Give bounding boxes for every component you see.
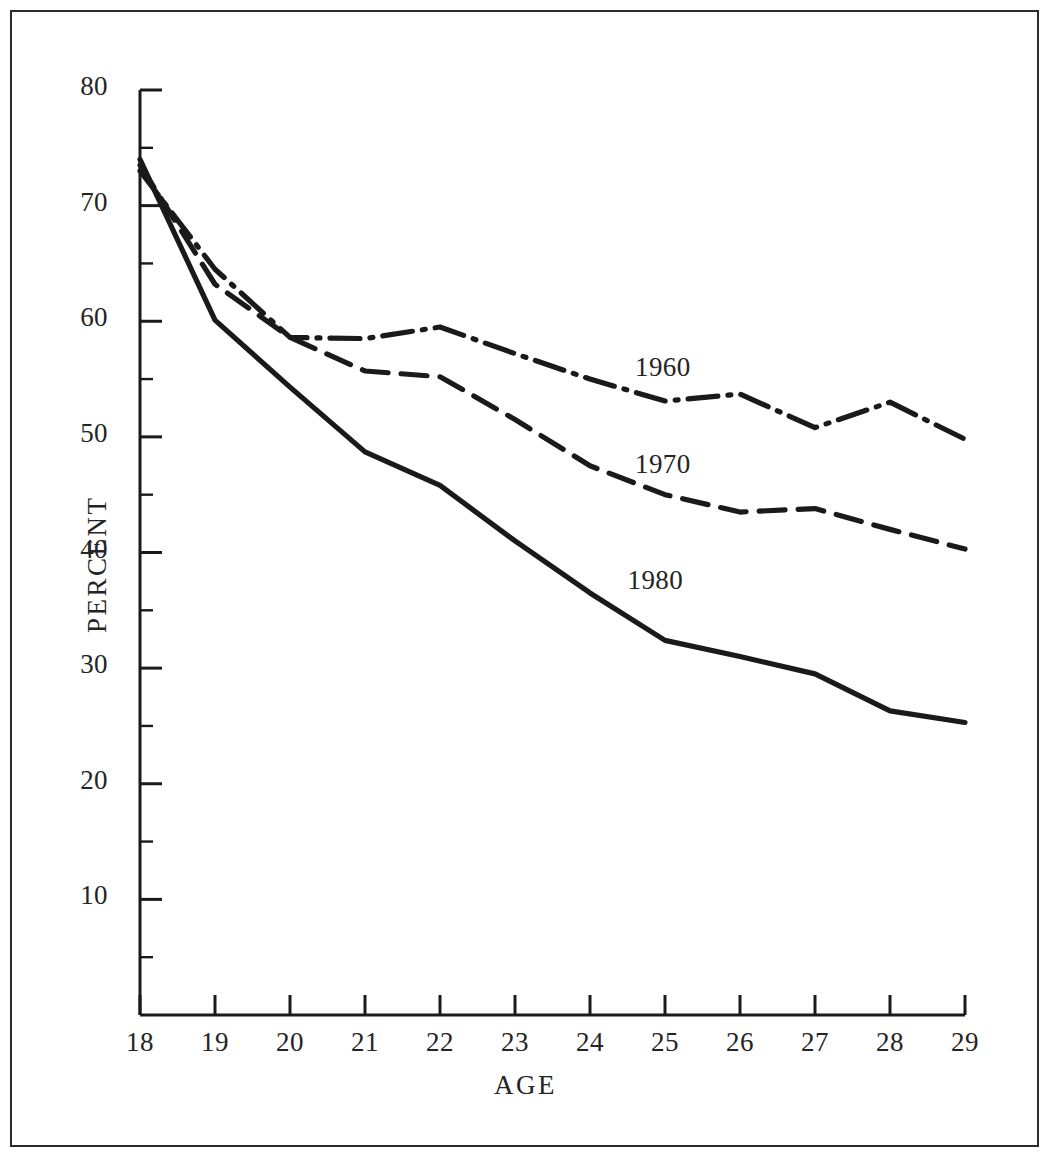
chart-page: 1020304050607080181920212223242526272829… [0, 0, 1051, 1159]
x-tick-label: 28 [850, 1027, 930, 1058]
x-tick-label: 20 [250, 1027, 330, 1058]
x-tick-label: 21 [325, 1027, 405, 1058]
y-tick-label: 70 [0, 187, 108, 218]
y-tick-label: 10 [0, 880, 108, 911]
series-annotation-1980: 1980 [628, 565, 684, 596]
series-annotation-1960: 1960 [635, 352, 691, 383]
x-axis-title: AGE [0, 1070, 1051, 1101]
series-annotation-1970: 1970 [635, 449, 691, 480]
x-tick-label: 26 [700, 1027, 780, 1058]
x-tick-label: 23 [475, 1027, 555, 1058]
series-line-1960 [140, 171, 965, 439]
y-axis-title: PERCENT [82, 495, 113, 633]
x-tick-label: 27 [775, 1027, 855, 1058]
axes [140, 90, 965, 1015]
data-series [140, 159, 965, 722]
y-tick-label: 50 [0, 418, 108, 449]
x-tick-label: 25 [625, 1027, 705, 1058]
y-tick-label: 20 [0, 765, 108, 796]
x-tick-label: 24 [550, 1027, 630, 1058]
y-tick-label: 80 [0, 71, 108, 102]
x-tick-label: 18 [100, 1027, 180, 1058]
y-tick-label: 60 [0, 302, 108, 333]
x-tick-label: 29 [925, 1027, 1005, 1058]
x-tick-label: 22 [400, 1027, 480, 1058]
y-tick-label: 30 [0, 649, 108, 680]
x-tick-label: 19 [175, 1027, 255, 1058]
series-line-1970 [140, 165, 965, 549]
line-chart-figure [0, 0, 1051, 1159]
